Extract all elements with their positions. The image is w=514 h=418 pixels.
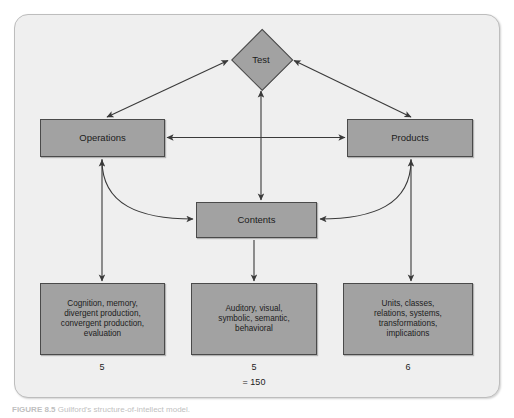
leaf-line: behavioral [218,324,289,334]
leaf-operations-lines: Cognition, memory, divergent production,… [61,299,144,339]
node-contents[interactable]: Contents [196,202,317,238]
leaf-line: implications [374,329,442,339]
leaf-line: transformations, [374,319,442,329]
leaf-line: Units, classes, [374,299,442,309]
leaf-line: convergent production, [61,319,144,329]
node-leaf-contents[interactable]: Auditory, visual, symbolic, semantic, be… [191,283,317,355]
node-leaf-operations[interactable]: Cognition, memory, divergent production,… [40,283,165,355]
total-product-count: = 150 [224,377,284,387]
node-contents-label: Contents [237,214,275,226]
leaf-line: symbolic, semantic, [218,314,289,324]
node-test[interactable]: Test [231,29,291,89]
leaf-line: evaluation [61,329,144,339]
node-operations-label: Operations [79,132,125,144]
figure-caption-text: Guilford's structure-of-intellect model. [58,405,190,414]
leaf-products-lines: Units, classes, relations, systems, tran… [374,299,442,339]
figure-root: Test Operations Products Contents Cognit… [0,0,514,418]
leaf-line: divergent production, [61,309,144,319]
leaf-contents-lines: Auditory, visual, symbolic, semantic, be… [218,304,289,334]
count-products: 6 [378,362,438,372]
node-operations[interactable]: Operations [40,119,165,157]
node-leaf-products[interactable]: Units, classes, relations, systems, tran… [343,283,473,355]
figure-caption: FIGURE 8.5 Guilford's structure-of-intel… [12,405,502,414]
leaf-line: relations, systems, [374,309,442,319]
count-operations: 5 [72,362,132,372]
node-products-label: Products [391,132,429,144]
leaf-line: Auditory, visual, [218,304,289,314]
figure-caption-number: FIGURE 8.5 [12,405,56,414]
leaf-line: Cognition, memory, [61,299,144,309]
node-products[interactable]: Products [347,119,473,157]
node-test-label: Test [231,29,291,89]
count-contents: 5 [224,362,284,372]
